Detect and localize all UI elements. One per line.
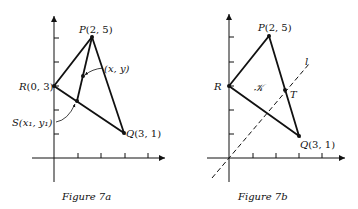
pointer-S [56,104,75,122]
x-ticks [253,153,322,158]
caption-7a: Figure 7a [61,191,111,202]
label-line-l: l [305,56,308,67]
triangle-PQR [229,36,299,136]
svg-text:Q(3, 1): Q(3, 1) [300,139,335,150]
svg-text:S(x₁, y₁): S(x₁, y₁) [12,117,52,128]
point-P [90,35,94,39]
point-Q [297,134,301,138]
label-xy: (x, y) [104,63,130,74]
label-Q: Q [126,128,134,139]
point-S [75,99,79,103]
label-S-coords: (x₁, y₁) [19,117,53,128]
label-P-coords: (2, 5) [86,24,113,35]
svg-text:P(2, 5): P(2, 5) [257,22,292,33]
label-T: T [290,89,298,100]
figure-7b: P(2, 5) R Q(3, 1) T 𝒦 l Figure 7b [207,14,345,202]
point-P [267,34,271,38]
svg-text:Q(3, 1): Q(3, 1) [126,128,161,139]
point-xy [81,74,85,78]
figure-7a: P(2, 5) R(0, 3) Q(3, 1) (x, y) S(x₁, y₁)… [12,16,165,202]
svg-text:R(0, 3): R(0, 3) [18,81,54,92]
svg-text:P(2, 5): P(2, 5) [78,24,113,35]
caption-7b: Figure 7b [237,191,288,202]
point-T [283,88,287,92]
label-Q-coords: (3, 1) [308,139,335,150]
label-Q: Q [300,139,308,150]
figure-canvas: P(2, 5) R(0, 3) Q(3, 1) (x, y) S(x₁, y₁)… [0,0,358,209]
label-region-K: 𝒦 [254,82,267,93]
label-P-coords: (2, 5) [265,22,292,33]
point-R [227,84,231,88]
label-Q-coords: (3, 1) [134,128,161,139]
label-R: R [213,81,222,92]
label-R-coords: (0, 3) [27,81,54,92]
x-ticks [78,153,148,158]
pointer-xy [85,68,103,75]
